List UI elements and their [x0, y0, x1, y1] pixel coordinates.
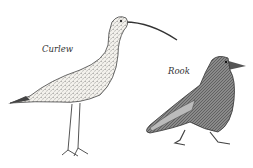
curlew-beak [125, 22, 177, 40]
bird-drawings [0, 0, 253, 168]
rook-label: Rook [168, 66, 190, 76]
curlew-legs [62, 103, 88, 156]
rook-eye [225, 61, 227, 63]
rook-drawing [147, 56, 247, 145]
rook-legs [175, 130, 230, 145]
curlew-label: Curlew [42, 44, 73, 54]
curlew-tail [8, 96, 30, 104]
curlew-body [10, 17, 128, 103]
curlew-drawing [8, 17, 177, 156]
curlew-eye [120, 20, 122, 22]
bird-illustration: Curlew Rook [0, 0, 253, 168]
